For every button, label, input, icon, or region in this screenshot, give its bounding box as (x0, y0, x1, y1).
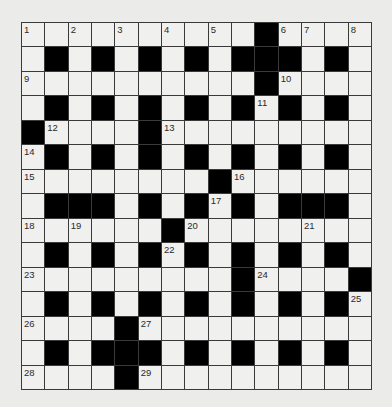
answer-cell[interactable] (302, 366, 324, 389)
answer-cell[interactable] (209, 243, 231, 266)
answer-cell[interactable] (162, 194, 184, 217)
answer-cell[interactable] (209, 341, 231, 364)
answer-cell[interactable] (92, 23, 114, 46)
answer-cell[interactable] (115, 194, 137, 217)
answer-cell[interactable] (69, 170, 91, 193)
answer-cell[interactable] (255, 243, 277, 266)
answer-cell[interactable] (255, 194, 277, 217)
answer-cell[interactable] (185, 72, 207, 95)
answer-cell[interactable]: 6 (279, 23, 301, 46)
answer-cell[interactable] (209, 268, 231, 291)
answer-cell[interactable] (115, 47, 137, 70)
answer-cell[interactable] (302, 170, 324, 193)
answer-cell[interactable] (302, 47, 324, 70)
answer-cell[interactable] (255, 317, 277, 340)
answer-cell[interactable] (115, 72, 137, 95)
answer-cell[interactable] (22, 243, 44, 266)
answer-cell[interactable] (349, 47, 371, 70)
answer-cell[interactable] (45, 366, 67, 389)
answer-cell[interactable]: 23 (22, 268, 44, 291)
answer-cell[interactable]: 5 (209, 23, 231, 46)
answer-cell[interactable] (325, 219, 347, 242)
answer-cell[interactable] (185, 366, 207, 389)
answer-cell[interactable]: 19 (69, 219, 91, 242)
answer-cell[interactable] (115, 268, 137, 291)
answer-cell[interactable]: 18 (22, 219, 44, 242)
answer-cell[interactable]: 1 (22, 23, 44, 46)
answer-cell[interactable] (302, 96, 324, 119)
answer-cell[interactable]: 17 (209, 194, 231, 217)
answer-cell[interactable] (279, 170, 301, 193)
answer-cell[interactable] (279, 317, 301, 340)
answer-cell[interactable] (162, 292, 184, 315)
answer-cell[interactable] (92, 219, 114, 242)
answer-cell[interactable]: 13 (162, 121, 184, 144)
answer-cell[interactable] (139, 219, 161, 242)
answer-cell[interactable] (69, 121, 91, 144)
answer-cell[interactable] (302, 268, 324, 291)
answer-cell[interactable] (185, 317, 207, 340)
answer-cell[interactable] (115, 170, 137, 193)
answer-cell[interactable]: 27 (139, 317, 161, 340)
answer-cell[interactable] (162, 145, 184, 168)
answer-cell[interactable] (69, 317, 91, 340)
answer-cell[interactable]: 4 (162, 23, 184, 46)
answer-cell[interactable] (92, 268, 114, 291)
answer-cell[interactable]: 2 (69, 23, 91, 46)
answer-cell[interactable] (325, 317, 347, 340)
answer-cell[interactable] (162, 47, 184, 70)
answer-cell[interactable] (349, 145, 371, 168)
answer-cell[interactable] (232, 366, 254, 389)
answer-cell[interactable]: 24 (255, 268, 277, 291)
answer-cell[interactable] (209, 366, 231, 389)
answer-cell[interactable] (209, 96, 231, 119)
answer-cell[interactable] (302, 72, 324, 95)
answer-cell[interactable] (349, 72, 371, 95)
answer-cell[interactable] (115, 243, 137, 266)
answer-cell[interactable]: 10 (279, 72, 301, 95)
answer-cell[interactable] (162, 268, 184, 291)
answer-cell[interactable] (69, 145, 91, 168)
answer-cell[interactable] (232, 72, 254, 95)
answer-cell[interactable] (69, 72, 91, 95)
answer-cell[interactable] (162, 170, 184, 193)
answer-cell[interactable]: 14 (22, 145, 44, 168)
answer-cell[interactable] (92, 121, 114, 144)
answer-cell[interactable] (255, 121, 277, 144)
answer-cell[interactable] (209, 121, 231, 144)
answer-cell[interactable] (115, 121, 137, 144)
answer-cell[interactable] (349, 121, 371, 144)
answer-cell[interactable] (45, 23, 67, 46)
answer-cell[interactable] (69, 243, 91, 266)
answer-cell[interactable] (325, 72, 347, 95)
answer-cell[interactable] (325, 268, 347, 291)
answer-cell[interactable] (279, 121, 301, 144)
answer-cell[interactable] (45, 317, 67, 340)
answer-cell[interactable] (22, 341, 44, 364)
answer-cell[interactable] (255, 341, 277, 364)
answer-cell[interactable] (139, 268, 161, 291)
answer-cell[interactable] (139, 23, 161, 46)
answer-cell[interactable] (69, 268, 91, 291)
answer-cell[interactable] (92, 72, 114, 95)
answer-cell[interactable] (45, 72, 67, 95)
answer-cell[interactable] (22, 292, 44, 315)
answer-cell[interactable] (255, 170, 277, 193)
answer-cell[interactable] (162, 317, 184, 340)
answer-cell[interactable] (45, 268, 67, 291)
answer-cell[interactable]: 22 (162, 243, 184, 266)
answer-cell[interactable] (349, 219, 371, 242)
answer-cell[interactable] (232, 121, 254, 144)
answer-cell[interactable] (255, 219, 277, 242)
answer-cell[interactable] (162, 72, 184, 95)
answer-cell[interactable] (185, 23, 207, 46)
answer-cell[interactable] (185, 170, 207, 193)
answer-cell[interactable] (302, 341, 324, 364)
answer-cell[interactable] (162, 341, 184, 364)
answer-cell[interactable] (325, 170, 347, 193)
answer-cell[interactable]: 28 (22, 366, 44, 389)
answer-cell[interactable] (22, 47, 44, 70)
answer-cell[interactable] (325, 121, 347, 144)
answer-cell[interactable] (209, 47, 231, 70)
answer-cell[interactable]: 3 (115, 23, 137, 46)
